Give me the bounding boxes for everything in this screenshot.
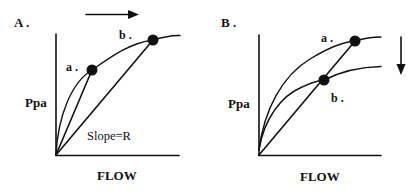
point-b — [148, 35, 159, 46]
arrow-down-icon — [397, 37, 406, 75]
x-axis-label: FLOW — [300, 169, 340, 184]
arrow-right-icon — [86, 10, 139, 19]
y-axis-label: Ppa — [228, 96, 250, 111]
point-b-label: b . — [331, 91, 344, 105]
panel-b-label: B . — [221, 15, 236, 30]
y-axis-label: Ppa — [25, 95, 47, 110]
panel-a-label: A . — [14, 15, 29, 30]
x-axis-label: FLOW — [97, 168, 137, 183]
point-a — [350, 36, 361, 47]
point-a-label: a . — [321, 31, 333, 45]
panel-a: A . a . b . Ppa Slope=R FLOW — [14, 10, 180, 183]
point-b — [319, 75, 330, 86]
panel-b: B . a . b . Ppa FLOW — [221, 15, 406, 184]
figure-canvas: A . a . b . Ppa Slope=R FLOW B . — [0, 0, 419, 192]
slope-annotation: Slope=R — [87, 129, 132, 143]
point-b-label: b . — [119, 28, 132, 42]
point-a — [87, 65, 98, 76]
point-a-label: a . — [66, 60, 78, 74]
